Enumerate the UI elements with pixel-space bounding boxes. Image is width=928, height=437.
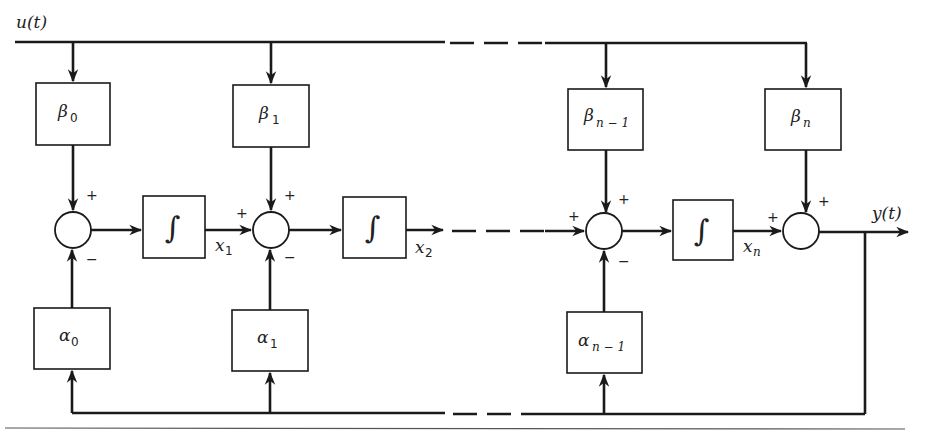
svg-text:2: 2 (425, 246, 433, 260)
svg-text:β: β (57, 101, 68, 121)
sign-minus: − (86, 251, 98, 267)
summing-junction-1 (253, 212, 289, 248)
svg-text:β: β (583, 105, 594, 125)
sign-minus: − (618, 253, 630, 269)
svg-text:∫: ∫ (165, 210, 181, 245)
svg-text:0: 0 (71, 335, 79, 349)
sign-plus: + (818, 193, 830, 209)
summing-junction-0 (55, 212, 91, 248)
svg-text:β: β (790, 106, 801, 126)
svg-text:n − 1: n − 1 (596, 116, 629, 130)
beta-block-1: β 1 (233, 85, 309, 147)
state-x2-label: x (415, 237, 425, 257)
input-label: u(t) (16, 12, 47, 32)
sign-minus: − (284, 249, 296, 265)
sign-plus: + (767, 209, 779, 225)
alpha-block-n-minus-1: α n − 1 (567, 312, 642, 373)
alpha-block-0: α 0 (34, 308, 110, 369)
svg-text:1: 1 (272, 113, 280, 127)
block-diagram: u(t) β 0 β 1 β n − 1 β n + − + + − + + −… (0, 0, 928, 437)
svg-text:n: n (803, 116, 811, 130)
svg-text:α: α (257, 327, 269, 347)
sign-plus: + (236, 205, 248, 221)
svg-text:α: α (578, 330, 590, 350)
svg-text:n − 1: n − 1 (592, 340, 625, 354)
sign-plus: + (618, 191, 630, 207)
sign-plus: + (86, 187, 98, 203)
summing-junction-n-minus-1 (586, 213, 622, 249)
alpha-block-1: α 1 (232, 310, 308, 371)
feedback-bus (72, 232, 865, 414)
svg-text:∫: ∫ (694, 213, 710, 248)
integrator-n: ∫ (673, 200, 733, 260)
output-label: y(t) (871, 203, 902, 223)
svg-text:∫: ∫ (365, 210, 381, 245)
divider (5, 428, 905, 429)
beta-block-0: β 0 (36, 83, 110, 145)
integrator-1: ∫ (143, 196, 205, 258)
input-bus (15, 42, 807, 87)
sign-plus: + (568, 208, 580, 224)
integrator-2: ∫ (343, 197, 406, 258)
svg-text:1: 1 (225, 244, 233, 258)
beta-block-n: β n (765, 89, 841, 150)
sign-plus: + (284, 187, 296, 203)
svg-text:1: 1 (270, 337, 278, 351)
beta-block-n-minus-1: β n − 1 (568, 89, 643, 150)
summing-junction-output (783, 213, 819, 249)
svg-text:0: 0 (70, 111, 78, 125)
svg-text:n: n (753, 245, 761, 259)
state-xn-label: x (743, 236, 753, 256)
svg-text:β: β (258, 103, 269, 123)
svg-text:α: α (59, 325, 71, 345)
state-x1-label: x (215, 235, 225, 255)
